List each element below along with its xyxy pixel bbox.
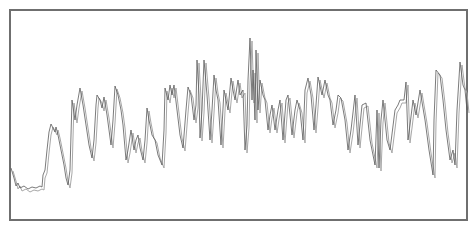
line-chart (0, 0, 476, 231)
signal-trace-primary (11, 38, 467, 189)
signal-trace-secondary (13, 41, 469, 192)
